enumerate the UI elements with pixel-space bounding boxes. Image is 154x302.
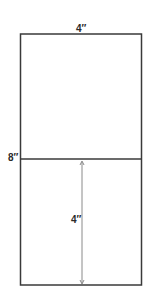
top-width-label: 4″ bbox=[76, 24, 86, 34]
inner-dimension-label: 4″ bbox=[71, 215, 81, 225]
left-height-label: 8″ bbox=[8, 153, 18, 163]
diagram-canvas bbox=[0, 0, 154, 302]
dimension-diagram: 4″ 8″ 4″ bbox=[0, 0, 154, 302]
